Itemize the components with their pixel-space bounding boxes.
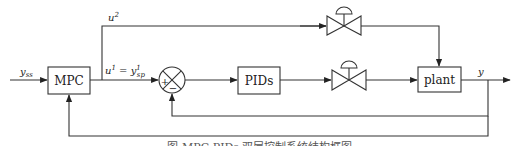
mpc-label: MPC xyxy=(54,74,84,88)
plant-label: plant xyxy=(424,73,455,87)
upper-valve-to-plant-arrow xyxy=(361,26,439,66)
output-label: y xyxy=(477,66,484,77)
block-diagram: yss MPC u1 = y1sp u2 + − PIDs plant xyxy=(0,0,514,146)
figure-caption: 图 MPC-PIDs 双层控制系统结构框图 xyxy=(167,140,352,146)
setpoint-label: u1 = y1sp xyxy=(105,64,145,79)
u2-label: u2 xyxy=(108,11,119,23)
control-valve-lower-icon xyxy=(332,61,366,90)
control-valve-upper-icon xyxy=(327,7,361,35)
minus-sign: − xyxy=(169,83,177,94)
input-label: yss xyxy=(19,66,33,79)
pids-label: PIDs xyxy=(245,74,274,88)
